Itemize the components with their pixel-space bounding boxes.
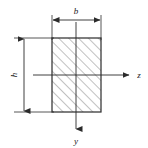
cross-section-drawing: b h z y	[0, 0, 148, 148]
axis-label-y: y	[73, 136, 78, 146]
dimension-label-width: b	[74, 6, 79, 16]
axis-label-z: z	[136, 70, 141, 80]
cross-section-figure: b h z y	[0, 0, 148, 148]
dimension-label-height: h	[9, 72, 19, 77]
